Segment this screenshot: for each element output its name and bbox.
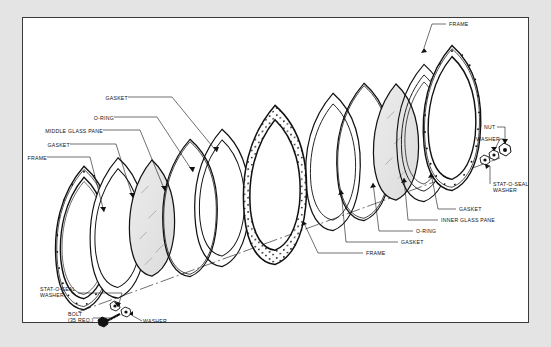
part-frame-inner [423, 41, 481, 194]
label-o-ring-right: O-RING [416, 228, 436, 234]
label-stat-o-seal-left: STAT-O-SEAL WASHER [40, 286, 76, 299]
diagram-canvas: GASKET O-RING MIDDLE GLASS PANE GASKET F… [0, 0, 551, 347]
label-stat-o-seal-right: STAT-O-SEAL WASHER [493, 181, 529, 194]
part-frame-center [243, 101, 306, 269]
label-gasket-right-lower: GASKET [401, 239, 424, 245]
nut-part [499, 143, 511, 156]
hardware-right [480, 143, 511, 165]
part-inner-glass-pane [373, 81, 418, 204]
bolt-part [98, 314, 120, 327]
label-bolt: BOLT (35 REQ.) [68, 311, 94, 324]
label-middle-glass-pane: MIDDLE GLASS PANE [20, 128, 103, 134]
label-frame-top-right: FRAME [449, 21, 468, 27]
label-gasket-top: GASKET [31, 95, 128, 101]
label-gasket-left: GASKET [20, 142, 70, 148]
label-frame-bottom: FRAME [366, 250, 385, 256]
label-gasket-right-upper: GASKET [459, 206, 482, 212]
label-washer-bottom: WASHER [143, 318, 167, 324]
label-frame-left: FRAME [17, 155, 47, 161]
part-gasket-2 [195, 126, 250, 271]
label-washer-right: WASHER [476, 136, 500, 142]
hardware-left [98, 301, 131, 327]
part-middle-glass-pane [129, 157, 174, 280]
label-inner-glass-pane: INNER GLASS PANE [441, 217, 495, 223]
label-o-ring-left: O-RING [31, 115, 114, 121]
label-nut: NUT [484, 124, 495, 130]
washer-left-part [121, 307, 131, 317]
exploded-assembly-artwork [0, 0, 551, 347]
washer-right-part [489, 150, 499, 160]
stat-o-seal-washer-right [480, 155, 490, 165]
